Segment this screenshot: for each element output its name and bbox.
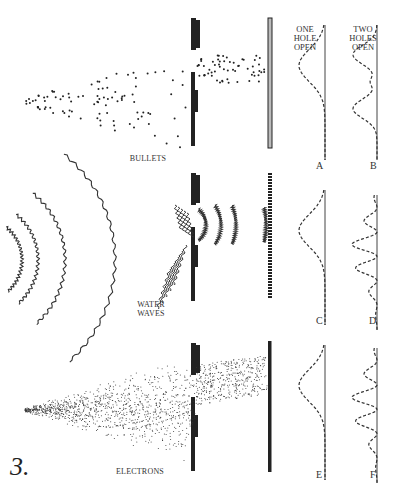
electron-dot [225, 363, 226, 364]
electron-dot [169, 377, 170, 378]
electron-dot [81, 396, 82, 397]
electron-dot [75, 403, 76, 404]
electron-dot [242, 388, 243, 389]
electron-dot [190, 425, 191, 426]
electron-dot [69, 418, 70, 419]
electron-dot [56, 408, 57, 409]
bullet-dot [238, 65, 240, 67]
electron-dot [247, 377, 248, 378]
electron-dot [224, 363, 225, 364]
electron-dot [74, 406, 75, 407]
electron-dot [218, 379, 219, 380]
bullet-dot [247, 68, 249, 70]
electron-dot [262, 384, 263, 385]
electron-dot [51, 402, 52, 403]
electron-dot [186, 433, 187, 434]
electron-dot [150, 429, 151, 430]
electron-dot [129, 409, 130, 410]
bullet-dot [233, 62, 235, 64]
electron-dot [182, 402, 183, 403]
electron-dot [258, 360, 259, 361]
bullet-dot [228, 82, 230, 84]
electron-dot [178, 415, 179, 416]
bullet-dot [236, 81, 238, 83]
electron-dot [35, 406, 36, 407]
electron-dot [148, 412, 149, 413]
electron-dot [190, 403, 191, 404]
electron-dot [155, 433, 156, 434]
electron-dot [108, 425, 109, 426]
electron-dot [39, 409, 40, 410]
electron-dot [99, 426, 100, 427]
electron-dot [228, 397, 229, 398]
electron-dot [196, 403, 197, 404]
letter-f: F [370, 469, 376, 480]
electron-dot [223, 363, 224, 364]
electron-dot [166, 392, 167, 393]
electron-dot [179, 415, 180, 416]
electron-dot [176, 379, 177, 380]
electron-dot [96, 402, 97, 403]
electron-dot [175, 428, 176, 429]
electron-dot [167, 365, 168, 366]
electron-dot [136, 397, 137, 398]
electron-dot [66, 410, 67, 411]
electron-dot [159, 422, 160, 423]
electron-dot [209, 393, 210, 394]
bullet-dot [91, 84, 93, 86]
electron-dot [179, 401, 180, 402]
electron-dot [119, 401, 120, 402]
water-wave-reflected [173, 245, 187, 285]
electron-dot [207, 384, 208, 385]
electron-dot [181, 443, 182, 444]
bullet-dot [221, 80, 223, 82]
electron-dot [145, 411, 146, 412]
electron-dot [50, 413, 51, 414]
electron-dot [234, 373, 235, 374]
electron-dot [210, 367, 211, 368]
bullet-dot [106, 112, 108, 114]
electron-dot [101, 404, 102, 405]
electron-dot [97, 401, 98, 402]
electron-dot [55, 410, 56, 411]
electron-dot [31, 408, 32, 409]
electron-dot [88, 415, 89, 416]
electron-dot [213, 398, 214, 399]
electron-dot [213, 375, 214, 376]
electron-dot [152, 386, 153, 387]
electron-dot [170, 375, 171, 376]
electron-dot [224, 383, 225, 384]
electron-dot [69, 406, 70, 407]
electron-dot [236, 385, 237, 386]
electron-dot [164, 433, 165, 434]
bullet-dot [99, 113, 101, 115]
electron-dot [34, 408, 35, 409]
electron-dot [137, 428, 138, 429]
electron-dot [155, 409, 156, 410]
electron-dot [236, 384, 237, 385]
electron-dot [257, 386, 258, 387]
electron-dot [109, 388, 110, 389]
electron-dot [218, 391, 219, 392]
bullet-dot [198, 75, 200, 77]
electron-dot [37, 405, 38, 406]
bullet-dot [259, 57, 261, 59]
electron-dot [162, 376, 163, 377]
electron-dot [263, 366, 264, 367]
electron-dot [53, 410, 54, 411]
electron-dot [136, 442, 137, 443]
electron-dot [264, 365, 265, 366]
bullet-dot [227, 70, 229, 72]
electron-dot [170, 380, 171, 381]
electron-dot [157, 368, 158, 369]
electron-dot [263, 389, 264, 390]
electron-dot [229, 397, 230, 398]
electron-dot [139, 436, 140, 437]
electron-dot [156, 414, 157, 415]
electron-dot [101, 405, 102, 406]
electron-dot [78, 426, 79, 427]
electron-dot [171, 418, 172, 419]
electron-dot [106, 396, 107, 397]
double-slit-diagram [0, 0, 403, 498]
electron-dot [183, 394, 184, 395]
